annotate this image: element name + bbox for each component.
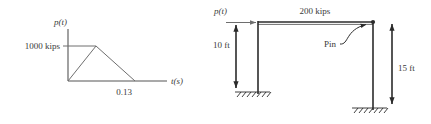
figure-root: p(t) 1000 kips 0.13 t(s) p(t) 200 kips [0,0,431,124]
pin-joint-marker [371,20,375,24]
pin-label: Pin [324,39,337,49]
right-ground-hatch-strokes [354,108,388,113]
pin-leader-line [340,25,366,45]
left-height-label: 10 ft [213,40,230,50]
right-height-label: 15 ft [398,63,415,73]
right-support-hatching [352,108,388,113]
load-label: p(t) [213,6,227,16]
portal-frame-structural-diagram: p(t) 200 kips Pin 10 ft 15 ft [0,0,431,124]
frame-members [258,20,375,110]
left-support-hatching [235,92,271,97]
beam-load-label: 200 kips [300,6,331,16]
left-ground-hatch-strokes [237,92,271,97]
pin-callout [340,25,366,45]
